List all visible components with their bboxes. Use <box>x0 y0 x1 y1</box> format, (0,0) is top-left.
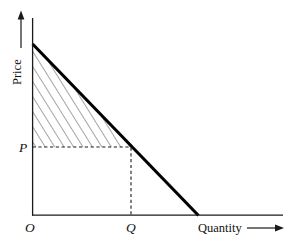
price-axis-title-group: Price <box>10 11 24 86</box>
quantity-axis-arrow-icon <box>275 225 284 232</box>
price-label: P <box>18 140 27 155</box>
quantity-axis-title: Quantity <box>198 221 242 235</box>
quantity-axis-title-group: Quantity <box>198 221 284 235</box>
figure-container: Price Quantity O P Q <box>0 0 289 242</box>
price-axis-arrow-icon <box>18 11 25 20</box>
origin-label: O <box>25 220 35 235</box>
consumer-surplus-diagram: Price Quantity O P Q <box>0 0 289 242</box>
price-axis-title: Price <box>10 59 24 85</box>
quantity-label: Q <box>126 220 136 235</box>
